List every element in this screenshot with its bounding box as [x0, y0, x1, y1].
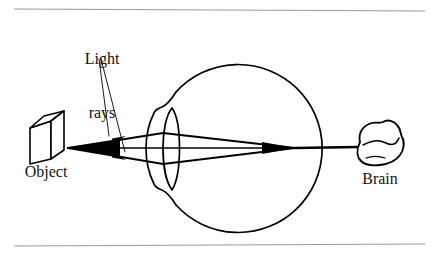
label-light-rays-line2: rays — [56, 104, 148, 122]
brain — [357, 121, 403, 166]
label-light-rays-line1: Light — [56, 50, 148, 68]
optic-nerve — [295, 147, 358, 148]
label-brain: Brain — [348, 170, 412, 188]
label-object: Object — [6, 163, 86, 181]
label-light-rays: Light rays — [56, 14, 148, 157]
figure-container: Light rays Object Brain — [0, 0, 438, 262]
